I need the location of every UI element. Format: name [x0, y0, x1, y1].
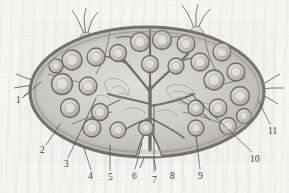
- label-1: 1: [16, 96, 21, 106]
- label-8: 8: [170, 172, 175, 182]
- label-7: 7: [152, 176, 157, 186]
- label-9: 9: [198, 172, 203, 182]
- label-10: 10: [250, 155, 260, 165]
- label-2: 2: [40, 146, 45, 156]
- label-4: 4: [88, 172, 93, 182]
- leader-4: [84, 148, 91, 170]
- lymph-node-illustration: [0, 0, 289, 193]
- lymph-node-figure: 1 2 3 4 5 6 7 8 9 10 11: [0, 0, 289, 193]
- label-6: 6: [132, 172, 137, 182]
- label-3: 3: [64, 160, 69, 170]
- label-5: 5: [108, 173, 113, 183]
- label-11: 11: [268, 127, 277, 137]
